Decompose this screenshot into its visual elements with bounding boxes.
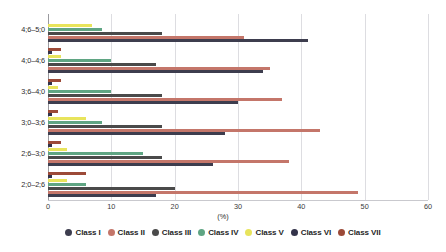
legend-label: Class III [162, 228, 191, 237]
bar [48, 28, 102, 31]
bar [48, 79, 61, 82]
bar [48, 70, 263, 73]
bar [48, 63, 156, 66]
bar-group [48, 138, 428, 169]
bar-stack [48, 76, 428, 107]
bar [48, 191, 358, 194]
bar [48, 110, 58, 113]
legend-swatch-icon [291, 229, 298, 236]
bar-stack [48, 107, 428, 138]
bar [48, 36, 244, 39]
bar [48, 187, 175, 190]
bar [48, 160, 289, 163]
bar [48, 51, 52, 54]
x-axis-tick-label: 30 [234, 202, 242, 211]
bar-group [48, 107, 428, 138]
bar [48, 113, 52, 116]
bar [48, 67, 270, 70]
legend-swatch-icon [65, 229, 72, 236]
x-axis-tick-label: 10 [107, 202, 115, 211]
bar [48, 194, 156, 197]
bar [48, 117, 86, 120]
bar [48, 55, 61, 58]
legend-item[interactable]: Class VI [291, 228, 331, 237]
bar [48, 172, 86, 175]
legend-item[interactable]: Class IV [198, 228, 238, 237]
y-axis-tick-label: 3;6–4;0 [1, 87, 45, 96]
bar-group [48, 14, 428, 45]
bar [48, 144, 52, 147]
legend-label: Class VI [301, 228, 331, 237]
bar-chart: 4;6–5;04;0–4;63;6–4;03;0–3;62;6–3;02;0–2… [0, 0, 446, 252]
bar [48, 163, 213, 166]
legend-item[interactable]: Class III [152, 228, 191, 237]
bar [48, 179, 67, 182]
legend-label: Class IV [208, 228, 238, 237]
bar-stack [48, 14, 428, 45]
bar [48, 101, 238, 104]
x-axis-tick-label: 50 [361, 202, 369, 211]
bar-stack [48, 138, 428, 169]
legend-swatch-icon [198, 229, 205, 236]
legend-swatch-icon [108, 229, 115, 236]
legend-label: Class II [118, 228, 145, 237]
chart-legend: Class IClass IIClass IIIClass IVClass VC… [0, 228, 446, 237]
legend-swatch-icon [245, 229, 252, 236]
bar [48, 48, 61, 51]
bar [48, 183, 86, 186]
bar [48, 98, 282, 101]
bar [48, 141, 61, 144]
bar [48, 125, 162, 128]
bar [48, 152, 143, 155]
y-axis-tick-labels: 4;6–5;04;0–4;63;6–4;03;0–3;62;6–3;02;0–2… [0, 14, 45, 200]
legend-label: Class V [255, 228, 283, 237]
bar [48, 94, 162, 97]
bar [48, 24, 92, 27]
legend-swatch-icon [152, 229, 159, 236]
bar [48, 59, 111, 62]
bar [48, 132, 225, 135]
legend-swatch-icon [338, 229, 345, 236]
y-axis-tick-label: 4;6–5;0 [1, 25, 45, 34]
legend-item[interactable]: Class VII [338, 228, 380, 237]
x-axis-tick-label: 20 [171, 202, 179, 211]
bar [48, 90, 111, 93]
x-axis-tick-label: 40 [297, 202, 305, 211]
gridline [428, 14, 429, 200]
bar [48, 129, 320, 132]
x-axis-title: (%) [0, 212, 446, 221]
bar [48, 148, 67, 151]
bar [48, 39, 308, 42]
x-axis-tick-label: 0 [46, 202, 50, 211]
bar-stack [48, 45, 428, 76]
bar-group [48, 76, 428, 107]
x-axis-line [48, 200, 428, 201]
legend-item[interactable]: Class I [65, 228, 100, 237]
plot-area [48, 14, 428, 200]
bar [48, 121, 102, 124]
y-axis-tick-label: 4;0–4;6 [1, 56, 45, 65]
legend-item[interactable]: Class V [245, 228, 283, 237]
bar [48, 156, 162, 159]
x-axis-tick-label: 60 [424, 202, 432, 211]
bar [48, 32, 162, 35]
bar-group [48, 45, 428, 76]
y-axis-tick-label: 3;0–3;6 [1, 118, 45, 127]
bar [48, 175, 52, 178]
bar-group [48, 169, 428, 200]
legend-label: Class I [75, 228, 100, 237]
bar-stack [48, 169, 428, 200]
y-axis-tick-label: 2;6–3;0 [1, 149, 45, 158]
bar [48, 86, 58, 89]
y-axis-tick-label: 2;0–2;6 [1, 180, 45, 189]
legend-label: Class VII [348, 228, 380, 237]
bar [48, 82, 52, 85]
legend-item[interactable]: Class II [108, 228, 145, 237]
